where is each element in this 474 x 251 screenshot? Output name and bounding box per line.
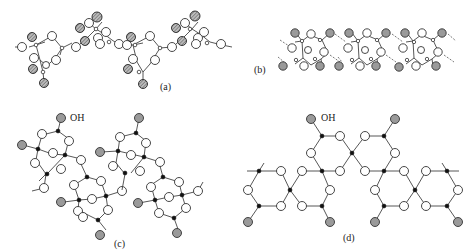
panel-label-a: (a): [160, 81, 171, 93]
panel-a: (a): [15, 11, 232, 93]
panel-c: OH (c): [18, 112, 204, 250]
oh-label-c: OH: [70, 112, 84, 123]
panel-b: (b): [254, 29, 456, 76]
panel-d: OH (d): [244, 112, 463, 244]
chain-a-unit-2: [123, 32, 177, 89]
diagram-canvas: (a): [0, 0, 474, 251]
panel-label-d: (d): [343, 232, 355, 244]
chain-b-unit-2: [335, 29, 403, 70]
ring-c-4: [134, 166, 204, 238]
oh-label-d: OH: [321, 112, 335, 123]
panel-label-c: (c): [114, 238, 125, 250]
panel-label-b: (b): [254, 64, 266, 76]
chain-a-unit-1: [15, 32, 81, 88]
chain-b-unit-3: [395, 29, 456, 71]
chain-a-twist-2: [172, 11, 233, 49]
ring-c-2: [57, 164, 127, 240]
ring-c-3: [96, 114, 165, 191]
hydroxyl-atom: [307, 115, 316, 124]
chain-a-twist-1: [76, 12, 124, 49]
